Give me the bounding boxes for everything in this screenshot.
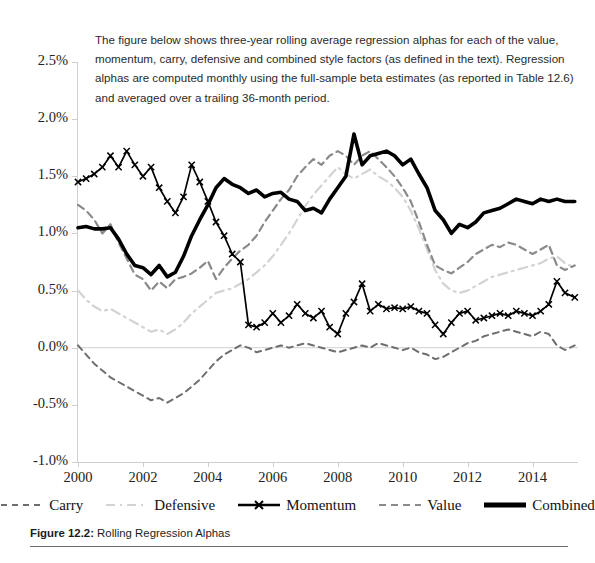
- x-axis-tick-label: 2012: [438, 469, 498, 486]
- y-axis-labels: 2.5%2.0%1.5%1.0%0.5%0.0%-0.5%-1.0%: [0, 62, 68, 463]
- figure-title: Rolling Regression Alphas: [97, 527, 230, 539]
- legend-key-dash-dot-light: [105, 498, 149, 512]
- x-axis-tick: [208, 462, 209, 467]
- figure-caption: Figure 12.2: Rolling Regression Alphas: [30, 527, 570, 539]
- legend-key-dashed-dark-gray: [0, 498, 44, 512]
- x-axis-tick-label: 2008: [308, 469, 368, 486]
- legend-label: Combined: [532, 497, 595, 514]
- x-axis-tick: [533, 462, 534, 467]
- figure-page: The figure below shows three-year rollin…: [0, 0, 595, 563]
- y-axis-tick-label: -1.0%: [6, 452, 68, 469]
- y-axis-tick-label: 0.5%: [6, 281, 68, 298]
- legend-item-defensive[interactable]: Defensive: [105, 497, 215, 514]
- x-axis-tick-label: 2000: [48, 469, 108, 486]
- x-axis-tick: [468, 462, 469, 467]
- x-axis-tick: [403, 462, 404, 467]
- series-line-combined: [78, 134, 575, 277]
- y-axis-tick-label: 1.0%: [6, 223, 68, 240]
- y-axis-tick-label: 2.5%: [6, 52, 68, 69]
- x-axis-tick: [338, 462, 339, 467]
- legend-item-carry[interactable]: Carry: [0, 497, 83, 514]
- legend-key-solid-x-marker: [237, 498, 281, 512]
- x-axis-tick: [143, 462, 144, 467]
- legend-label: Carry: [49, 497, 83, 514]
- legend-key-dashed-medium-gray: [378, 498, 422, 512]
- legend-label: Defensive: [154, 497, 215, 514]
- y-axis-tick-label: 1.5%: [6, 166, 68, 183]
- series-lines: [78, 62, 578, 462]
- legend-item-momentum[interactable]: Momentum: [237, 497, 356, 514]
- x-axis-line: [77, 462, 578, 463]
- legend-label: Momentum: [286, 497, 356, 514]
- x-axis-tick-label: 2014: [503, 469, 563, 486]
- x-axis-tick: [78, 462, 79, 467]
- series-line-defensive: [78, 167, 575, 334]
- legend-item-combined[interactable]: Combined: [483, 497, 595, 514]
- x-axis-tick-label: 2006: [243, 469, 303, 486]
- series-line-momentum: [78, 151, 575, 334]
- x-axis-tick-label: 2004: [178, 469, 238, 486]
- y-axis-tick-label: -0.5%: [6, 395, 68, 412]
- series-line-carry: [78, 329, 575, 402]
- caption-rule: [30, 546, 568, 547]
- legend-item-value[interactable]: Value: [378, 497, 461, 514]
- x-axis-tick-label: 2002: [113, 469, 173, 486]
- chart-legend: CarryDefensiveMomentumValueCombined: [0, 492, 595, 518]
- figure-number: Figure 12.2:: [30, 527, 94, 539]
- plot-area: [78, 62, 578, 462]
- x-axis-tick-label: 2010: [373, 469, 433, 486]
- legend-label: Value: [427, 497, 461, 514]
- y-axis-tick-label: 0.0%: [6, 338, 68, 355]
- chart-container: 2.5%2.0%1.5%1.0%0.5%0.0%-0.5%-1.0% 20002…: [0, 50, 595, 480]
- legend-key-thick-solid-black: [483, 498, 527, 512]
- series-markers-momentum: [75, 148, 578, 337]
- x-axis-tick: [273, 462, 274, 467]
- y-axis-tick-label: 2.0%: [6, 109, 68, 126]
